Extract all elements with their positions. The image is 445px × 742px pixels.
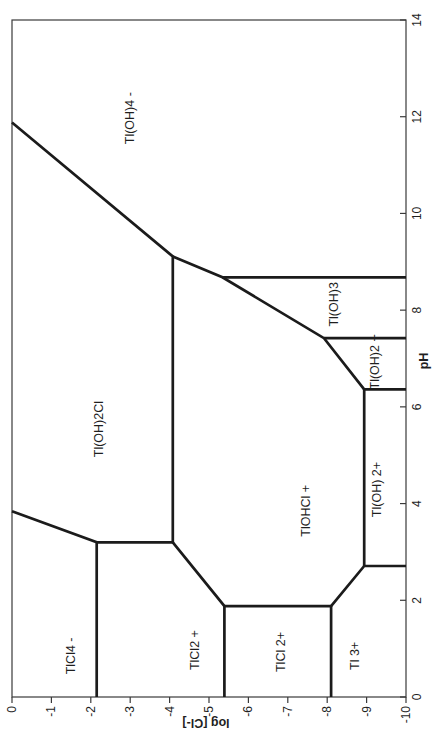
y-tick-label: -10 <box>399 706 413 724</box>
region-label-tlcl-2: TlCl 2+ <box>274 632 288 672</box>
y-tick-label: -7 <box>281 706 295 717</box>
y-tick-label: -1 <box>44 706 58 717</box>
region-label-tl-oh-2: Tl(OH)2 + <box>368 334 382 389</box>
region-label-tlcl2: TlCl2 + <box>188 630 202 670</box>
y-tick-label: -9 <box>360 706 374 717</box>
phase-boundary-tlcl2-sep <box>173 542 225 697</box>
phase-boundary-tlcl4-sep <box>12 511 97 697</box>
phase-boundary-tl-oh-2cl-sep <box>12 123 173 543</box>
axis-label-log-cl: log [Cl-] <box>182 716 229 730</box>
region-label-tl-oh-4: Tl(OH)4 - <box>123 92 137 144</box>
x-tick-label: 12 <box>410 110 424 124</box>
y-tick-label: 0 <box>5 706 19 713</box>
x-tick-label: 14 <box>410 13 424 27</box>
y-tick-label: -2 <box>84 706 98 717</box>
y-tick-label: -8 <box>320 706 334 717</box>
x-tick-label: 4 <box>410 500 424 507</box>
y-tick-label: -6 <box>241 706 255 717</box>
region-label-tlcl4: TlCl4 - <box>64 637 78 674</box>
scanned-page: 024681012140-1-2-3-4-5-6-7-8-9-10pHlog [… <box>0 0 445 742</box>
x-tick-label: 6 <box>410 403 424 410</box>
x-tick-label: 8 <box>410 306 424 313</box>
x-tick-label: 10 <box>410 206 424 220</box>
plot-frame <box>12 20 406 697</box>
region-label-tl-oh-2: Tl(OH) 2+ <box>370 462 384 517</box>
x-tick-label: 2 <box>410 597 424 604</box>
y-tick-label: -3 <box>123 706 137 717</box>
phase-boundary-tl3p-sep <box>331 566 406 606</box>
region-label-tl-3: Tl 3+ <box>348 642 362 670</box>
rotated-landscape-chart: 024681012140-1-2-3-4-5-6-7-8-9-10pHlog [… <box>0 0 445 742</box>
y-tick-label: -4 <box>163 706 177 717</box>
region-label-tlohcl: TlOHCl + <box>299 485 313 537</box>
predominance-diagram: 024681012140-1-2-3-4-5-6-7-8-9-10pHlog [… <box>0 0 445 742</box>
axis-label-ph: pH <box>417 353 431 370</box>
y-tick-label: -5 <box>202 706 216 717</box>
x-tick-label: 0 <box>410 693 424 700</box>
region-label-tl-oh-2cl: Tl(OH)2Cl <box>92 401 106 457</box>
region-label-tl-oh-3: Tl(OH)3 <box>327 282 341 326</box>
